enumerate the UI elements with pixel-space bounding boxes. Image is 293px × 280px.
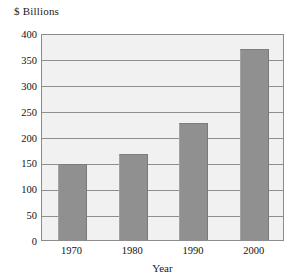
y-axis-unit-label: $ Billions bbox=[14, 5, 59, 17]
bar-2000 bbox=[240, 49, 269, 240]
y-axis-tick-label: 150 bbox=[0, 158, 37, 169]
x-axis-tick-label: 1980 bbox=[102, 245, 162, 256]
y-axis-tick-label: 100 bbox=[0, 184, 37, 195]
bar-1970 bbox=[58, 164, 87, 240]
y-axis-tick-label: 250 bbox=[0, 106, 37, 117]
y-axis-tick-label: 50 bbox=[0, 210, 37, 221]
y-axis-tick-label: 400 bbox=[0, 29, 37, 40]
y-axis-tick-label: 350 bbox=[0, 54, 37, 65]
y-axis-tick-label: 0 bbox=[0, 236, 37, 247]
x-axis-title: Year bbox=[41, 262, 284, 274]
x-axis-tick-label: 1990 bbox=[163, 245, 223, 256]
y-axis-tick-label: 300 bbox=[0, 80, 37, 91]
x-axis-tick-label: 2000 bbox=[224, 245, 284, 256]
bar-1990 bbox=[179, 123, 208, 240]
bar-chart-figure: $ Billions 050100150200250300350400 1970… bbox=[0, 0, 293, 280]
y-axis-tick-label: 200 bbox=[0, 132, 37, 143]
bar-1980 bbox=[119, 154, 148, 240]
x-axis-tick-label: 1970 bbox=[41, 245, 101, 256]
plot-area bbox=[41, 34, 284, 241]
